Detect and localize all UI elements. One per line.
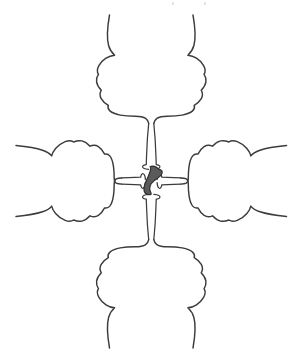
left-tube-lower-wall (122, 183, 146, 189)
bottom-tube-left-wall (143, 194, 149, 239)
right-tube-lower-wall (157, 183, 181, 189)
core-blob-shape (144, 166, 162, 195)
bottom-lobe (96, 240, 206, 348)
diagram-canvas: Cruciform four-lobed structure diagram (0, 0, 303, 363)
top-tube-right-wall (154, 123, 160, 169)
bottom-tube-right-wall (154, 194, 160, 239)
top-tube-left-wall (143, 123, 149, 169)
top-lobe-right-contour (154, 15, 206, 123)
left-lobe-upper-contour (16, 141, 122, 184)
bottom-connecting-tube (143, 194, 160, 239)
bottom-lobe-right-contour (154, 240, 206, 348)
left-tube-upper-wall (122, 174, 146, 180)
right-lobe (181, 141, 287, 222)
left-lobe (16, 141, 122, 222)
left-connecting-tube (122, 174, 146, 189)
bottom-lobe-left-contour (96, 240, 148, 348)
figure-container: i i Cruciform four-lobed structure diagr… (0, 0, 303, 363)
right-lobe-lower-contour (181, 178, 287, 221)
right-lobe-upper-contour (181, 141, 287, 184)
top-lobe (96, 15, 206, 123)
top-connecting-tube (143, 123, 160, 169)
top-lobe-left-contour (96, 15, 148, 123)
left-lobe-lower-contour (16, 178, 122, 221)
central-stained-body (144, 166, 162, 195)
